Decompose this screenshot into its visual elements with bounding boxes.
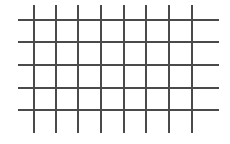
- horizontal-grid-line: [18, 87, 219, 89]
- horizontal-grid-line: [18, 109, 219, 111]
- vertical-grid-line: [77, 5, 79, 133]
- vertical-grid-line: [55, 5, 57, 133]
- vertical-grid-line: [33, 5, 35, 133]
- horizontal-grid-line: [18, 41, 219, 43]
- grid-canvas: [0, 0, 230, 144]
- vertical-grid-line: [168, 5, 170, 133]
- vertical-grid-line: [145, 5, 147, 133]
- horizontal-grid-line: [18, 19, 219, 21]
- horizontal-grid-line: [18, 64, 219, 66]
- vertical-grid-line: [100, 5, 102, 133]
- vertical-grid-line: [123, 5, 125, 133]
- vertical-grid-line: [191, 5, 193, 133]
